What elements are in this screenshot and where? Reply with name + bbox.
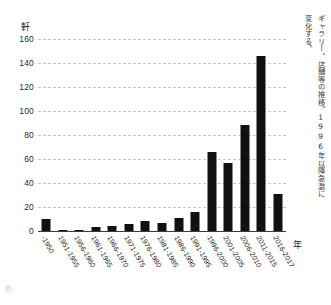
bar xyxy=(42,219,51,231)
bar-series xyxy=(38,39,286,231)
bar-slot xyxy=(104,39,121,231)
bar-slot xyxy=(253,39,270,231)
y-axis-tick-labels: 020406080100120140160 xyxy=(0,39,34,231)
y-axis-tick-label: 0 xyxy=(29,226,34,236)
y-axis-tick-label: 120 xyxy=(19,82,34,92)
bar-slot xyxy=(269,39,286,231)
bar xyxy=(273,194,282,231)
bar-slot xyxy=(71,39,88,231)
y-axis-tick-label: 80 xyxy=(24,130,34,140)
y-axis-tick-label: 60 xyxy=(24,154,34,164)
bar xyxy=(141,221,150,231)
bar xyxy=(124,224,133,231)
x-axis-tick-labels: -19501951-19551956-19601961-19651966-197… xyxy=(38,231,286,301)
y-axis-tick-label: 40 xyxy=(24,178,34,188)
bar-slot xyxy=(137,39,154,231)
bar-slot xyxy=(121,39,138,231)
chart-figure: 軒 020406080100120140160 -19501951-195519… xyxy=(0,0,331,305)
y-axis-tick-label: 100 xyxy=(19,106,34,116)
bar-slot xyxy=(55,39,72,231)
x-axis-unit-label: 年 xyxy=(293,238,302,251)
x-axis-tick-label: -1950 xyxy=(39,234,56,255)
page-mark: ⑪ xyxy=(4,283,12,294)
bar-slot xyxy=(220,39,237,231)
bar xyxy=(240,125,249,231)
bar xyxy=(174,218,183,231)
y-axis-unit-label: 軒 xyxy=(21,20,30,33)
bar-slot xyxy=(203,39,220,231)
bar xyxy=(224,163,233,231)
bar-slot xyxy=(187,39,204,231)
plot-area xyxy=(38,39,286,231)
bar-slot xyxy=(88,39,105,231)
y-axis-tick-label: 140 xyxy=(19,58,34,68)
chart-caption-note: ギャラリー、店舗等の推移。1996年以降急激に変化する。 xyxy=(301,14,327,204)
bar-slot xyxy=(154,39,171,231)
bar xyxy=(157,223,166,231)
y-axis-tick-label: 160 xyxy=(19,34,34,44)
bar xyxy=(191,212,200,231)
bar-slot xyxy=(170,39,187,231)
bar-slot xyxy=(236,39,253,231)
bar-slot xyxy=(38,39,55,231)
bar xyxy=(207,152,216,231)
bar xyxy=(257,56,266,231)
y-axis-tick-label: 20 xyxy=(24,202,34,212)
